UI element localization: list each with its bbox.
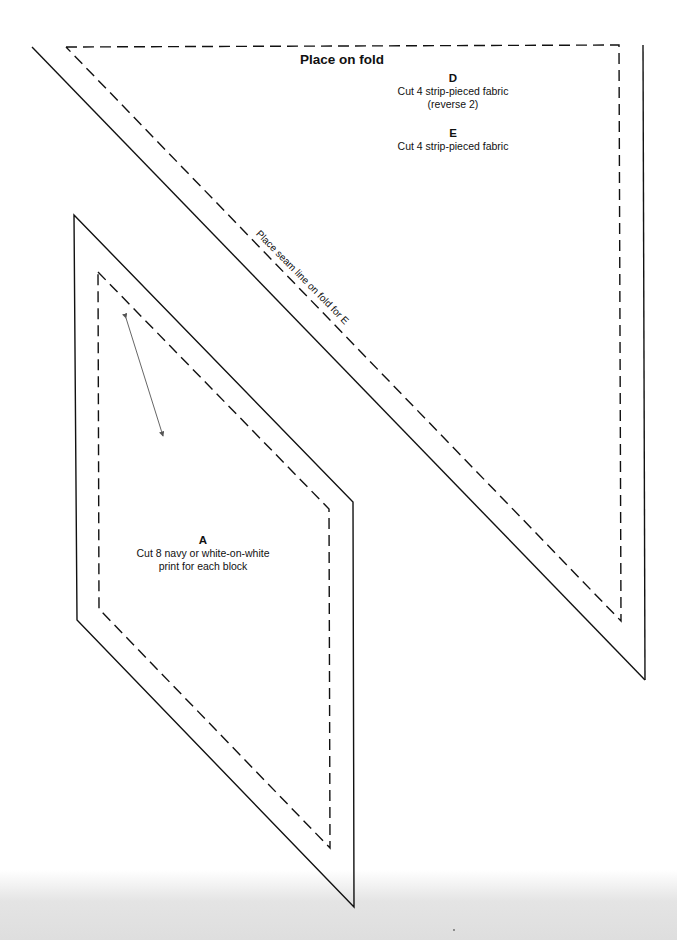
piece-d-letter: D bbox=[378, 71, 528, 85]
piece-a-label: A Cut 8 navy or white-on-white print for… bbox=[128, 533, 278, 573]
piece-d-note: (reverse 2) bbox=[378, 98, 528, 111]
pattern-drawing bbox=[0, 0, 677, 940]
pattern-page: Place on fold D Cut 4 strip-pieced fabri… bbox=[0, 0, 677, 940]
piece-a-letter: A bbox=[128, 533, 278, 547]
piece-d-instruction: Cut 4 strip-pieced fabric bbox=[378, 85, 528, 98]
place-on-fold-label: Place on fold bbox=[300, 52, 384, 67]
piece-a-instruction: Cut 8 navy or white-on-white bbox=[128, 547, 278, 560]
piece-e-label: E Cut 4 strip-pieced fabric bbox=[378, 126, 528, 153]
speck bbox=[453, 929, 455, 931]
piece-a-note: print for each block bbox=[128, 560, 278, 573]
piece-d-label: D Cut 4 strip-pieced fabric (reverse 2) bbox=[378, 71, 528, 111]
triangle-cut-line bbox=[32, 45, 645, 680]
grain-line-arrow-icon bbox=[126, 318, 163, 436]
piece-e-letter: E bbox=[378, 126, 528, 140]
piece-e-instruction: Cut 4 strip-pieced fabric bbox=[378, 140, 528, 153]
